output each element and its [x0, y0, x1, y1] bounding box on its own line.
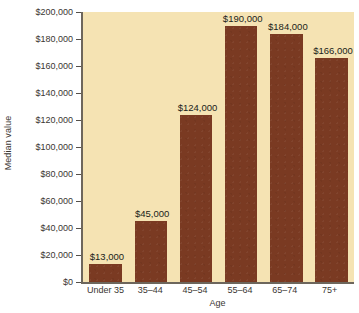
bar[interactable]: $124,000 [180, 115, 213, 282]
bar-value-label: $45,000 [135, 208, 169, 219]
bar-slot: $166,000 [309, 12, 354, 282]
bar-slot: $124,000 [173, 12, 218, 282]
bar-value-label: $184,000 [268, 21, 308, 32]
y-axis-tick-labels: $0$20,000$40,000$60,000$80,000$100,000$1… [16, 12, 81, 282]
y-axis-tick-label: $180,000 [35, 34, 73, 44]
y-axis-tick-label: $80,000 [40, 169, 73, 179]
bar[interactable]: $190,000 [225, 26, 258, 283]
y-axis-tick-label: $120,000 [35, 115, 73, 125]
x-axis-tick-label: 65–74 [262, 285, 307, 295]
bar-value-label: $13,000 [90, 251, 124, 262]
x-axis-title: Age [83, 298, 352, 308]
x-axis-tick-label: 35–44 [128, 285, 173, 295]
y-axis-tick-label: $160,000 [35, 61, 73, 71]
y-axis-tick-label: $200,000 [35, 7, 73, 17]
bar[interactable]: $45,000 [135, 221, 168, 282]
y-axis-tick-label: $40,000 [40, 223, 73, 233]
x-axis-tick-labels: Under 3535–4445–5455–6465–7475+ [83, 285, 352, 295]
bar-slot: $190,000 [219, 12, 264, 282]
y-axis-tick-label: $20,000 [40, 250, 73, 260]
x-axis-tick-label: 45–54 [173, 285, 218, 295]
y-axis-title: Median value [0, 0, 16, 285]
x-axis-tick-label: Under 35 [83, 285, 128, 295]
bar-slot: $13,000 [83, 12, 128, 282]
x-axis-tick-label: 55–64 [217, 285, 262, 295]
bar-series: $13,000$45,000$124,000$190,000$184,000$1… [83, 12, 354, 282]
bar-value-label: $124,000 [178, 102, 218, 113]
y-axis-tick-label: $100,000 [35, 142, 73, 152]
bar-chart-figure: Median value $0$20,000$40,000$60,000$80,… [0, 0, 359, 313]
y-axis-tick-label: $60,000 [40, 196, 73, 206]
bar[interactable]: $184,000 [270, 34, 303, 282]
y-axis-title-text: Median value [3, 115, 13, 170]
bar-value-label: $166,000 [313, 45, 353, 56]
y-axis-tick-label: $0 [63, 277, 73, 287]
bar[interactable]: $13,000 [89, 264, 122, 282]
y-axis-tick-label: $140,000 [35, 88, 73, 98]
bar[interactable]: $166,000 [315, 58, 348, 282]
bar-slot: $184,000 [264, 12, 309, 282]
plot-area: $13,000$45,000$124,000$190,000$184,000$1… [81, 12, 354, 284]
x-axis-tick-label: 75+ [307, 285, 352, 295]
bar-value-label: $190,000 [223, 13, 263, 24]
bar-slot: $45,000 [128, 12, 173, 282]
